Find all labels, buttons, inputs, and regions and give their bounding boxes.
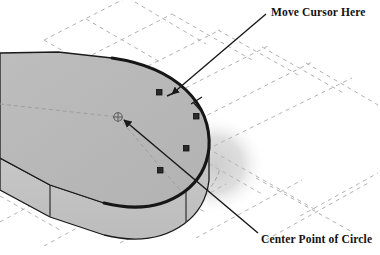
callout-label-move-cursor: Move Cursor Here bbox=[271, 7, 366, 19]
vertex-handle[interactable] bbox=[158, 168, 164, 174]
figure-container: Move Cursor Here Center Point of Circle bbox=[0, 0, 380, 255]
callout-label-center-point: Center Point of Circle bbox=[261, 234, 372, 246]
cad-viewport[interactable] bbox=[0, 0, 380, 255]
vertex-handle[interactable] bbox=[184, 146, 190, 152]
vertex-handle[interactable] bbox=[194, 114, 200, 120]
vertex-handle[interactable] bbox=[157, 90, 163, 96]
